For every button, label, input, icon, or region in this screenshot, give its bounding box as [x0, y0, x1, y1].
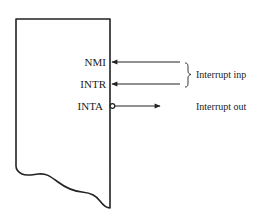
- interrupt-input-label: Interrupt inp: [196, 69, 246, 80]
- interrupt-output-label: Interrupt out: [196, 101, 246, 112]
- interrupt-input-brace: [185, 63, 191, 87]
- inta-inversion-bubble: [110, 104, 115, 109]
- interrupt-diagram: NMI INTR INTA Interrupt inp Interrupt ou…: [0, 0, 265, 220]
- chip-body: [16, 19, 110, 208]
- pin-label-nmi: NMI: [85, 56, 107, 68]
- pin-label-intr: INTR: [80, 78, 106, 90]
- pin-label-inta: INTA: [78, 100, 103, 112]
